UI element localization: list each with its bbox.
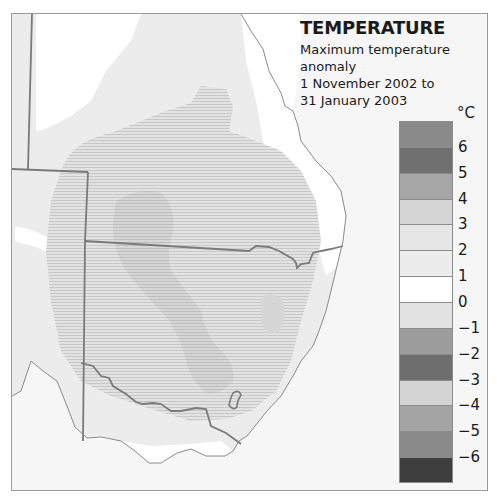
colorbar-band [399,147,453,173]
colorbar-tick-label: −4 [458,398,480,413]
legend-title: TEMPERATURE [300,17,445,38]
colorbar-band [399,328,453,354]
colorbar-band [399,250,453,276]
subtitle-line-3: 1 November 2002 to [300,75,490,92]
colorbar-band [399,354,453,380]
legend-unit: °C [457,104,475,122]
colorbar-band [399,302,453,328]
colorbar-tick-label: −6 [458,450,480,465]
colorbar-band [399,380,453,406]
colorbar-tick-label: 5 [458,166,468,181]
colorbar-tick-label: 1 [458,269,468,284]
colorbar-tick-label: −5 [458,424,480,439]
colorbar-tick-label: 3 [458,217,468,232]
colorbar-band [399,173,453,199]
colorbar-tick-label: 2 [458,243,468,258]
colorbar-band [399,457,453,483]
colorbar-band [399,431,453,457]
subtitle-line-2: anomaly [300,58,490,75]
subtitle-line-1: Maximum temperature [300,41,490,58]
colorbar-band [399,405,453,431]
colorbar-band [399,121,453,147]
colorbar-band [399,224,453,250]
colorbar-tick-label: −3 [458,373,480,388]
colorbar-tick-label: −1 [458,321,480,336]
colorbar-band [399,276,453,302]
colorbar-tick-label: −2 [458,347,480,362]
colorbar-tick-label: 0 [458,295,468,310]
colorbar-tick-label: 4 [458,192,468,207]
colorbar-tick-label: 6 [458,140,468,155]
legend-subtitle: Maximum temperature anomaly 1 November 2… [300,41,490,109]
colorbar-band [399,199,453,225]
